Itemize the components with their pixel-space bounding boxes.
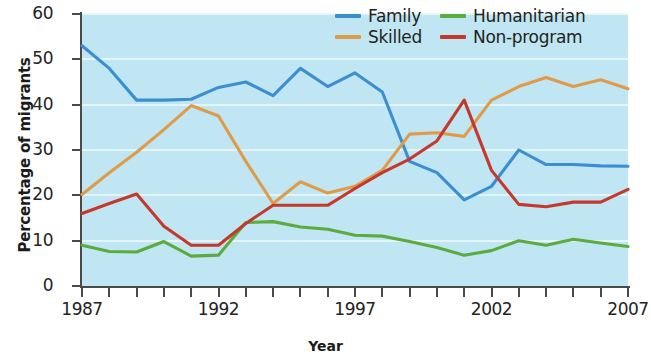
legend-item-humanitarian[interactable]: Humanitarian bbox=[440, 6, 585, 26]
series-line-family bbox=[82, 46, 628, 200]
series-line-non-program bbox=[82, 100, 628, 245]
chart-legend: FamilyHumanitarianSkilledNon-program bbox=[335, 6, 585, 47]
legend-swatch-icon bbox=[440, 14, 466, 17]
legend-item-family[interactable]: Family bbox=[335, 6, 422, 26]
legend-swatch-icon bbox=[440, 35, 466, 38]
legend-label: Skilled bbox=[368, 27, 422, 47]
series-lines bbox=[0, 0, 651, 362]
x-axis-title: Year bbox=[0, 338, 651, 354]
legend-label: Family bbox=[368, 6, 421, 26]
legend-item-skilled[interactable]: Skilled bbox=[335, 27, 422, 47]
legend-label: Humanitarian bbox=[473, 6, 585, 26]
series-line-skilled bbox=[82, 77, 628, 203]
y-axis-title: Percentage of migrants bbox=[16, 25, 34, 285]
line-chart: 0102030405060 19871992199720022007 Famil… bbox=[0, 0, 651, 362]
legend-label: Non-program bbox=[473, 27, 582, 47]
legend-item-non-program[interactable]: Non-program bbox=[440, 27, 585, 47]
legend-swatch-icon bbox=[335, 35, 361, 38]
legend-swatch-icon bbox=[335, 14, 361, 17]
